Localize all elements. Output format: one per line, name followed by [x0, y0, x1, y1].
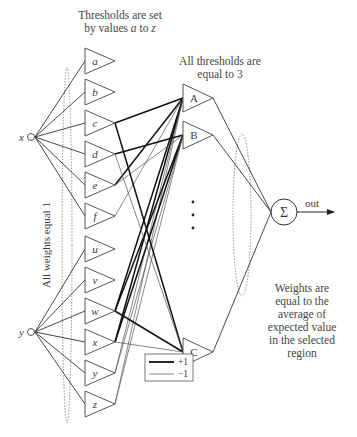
- legend-minus-label: −1: [178, 369, 188, 379]
- hidden-neuron-B: B: [183, 121, 213, 149]
- note-line: equal to the: [252, 295, 352, 308]
- threshold-neuron-b: b: [85, 79, 115, 105]
- ellipsis-dot: [192, 214, 195, 217]
- note-text: to: [137, 22, 152, 34]
- weighted-edge: [115, 98, 183, 311]
- threshold-neuron-e: e: [85, 172, 115, 198]
- threshold-neuron-x: x: [85, 329, 115, 355]
- threshold-neuron-c: c: [85, 110, 115, 136]
- first-layer-neurons: abcdefuvwxyz: [85, 48, 115, 417]
- weighted-edge: [115, 98, 183, 342]
- note-line: by values a to z: [50, 22, 190, 35]
- threshold-neuron-z: z: [85, 391, 115, 417]
- legend-plus-label: +1: [178, 357, 188, 367]
- input-label: x: [18, 131, 24, 143]
- input-node-y: y: [18, 326, 34, 338]
- hidden-neuron-A: A: [183, 84, 213, 112]
- note-line: All thresholds are: [150, 55, 290, 68]
- note-line: equal to 3: [150, 68, 290, 81]
- neuron-label: v: [93, 274, 98, 286]
- input-label: y: [18, 326, 24, 338]
- right-weights-region: [233, 134, 251, 296]
- second-layer-neurons: ABC: [183, 84, 213, 366]
- neuron-label: a: [92, 55, 98, 67]
- threshold-neuron-u: u: [85, 236, 115, 262]
- input-edge: [35, 137, 85, 185]
- input-node-x: x: [18, 131, 34, 143]
- note-line: Thresholds are set: [50, 9, 190, 22]
- neuron-label: c: [93, 117, 98, 129]
- note-text: by values: [84, 22, 131, 34]
- input-nodes: xy: [18, 131, 34, 338]
- ellipsis-dot: [192, 201, 195, 204]
- neuron-label: B: [190, 129, 197, 141]
- weights-average-note: Weights areequal to theaverage ofexpecte…: [252, 282, 352, 360]
- output-label: out: [305, 197, 319, 209]
- output-edge: [213, 98, 271, 212]
- neuron-label: e: [93, 179, 98, 191]
- neuron-label: d: [92, 148, 98, 160]
- output-edge: [213, 135, 271, 212]
- left-weights-region: [62, 67, 72, 423]
- left-weights-label: All weights equal 1: [40, 202, 52, 288]
- threshold-neuron-y: y: [85, 360, 115, 386]
- note-line: in the selected: [252, 334, 352, 347]
- input-edge: [35, 311, 85, 332]
- weighted-edge: [115, 135, 183, 311]
- weighted-edge: [115, 342, 183, 352]
- neuron-label: u: [92, 243, 98, 255]
- weighted-edge: [115, 154, 183, 352]
- input-edge: [35, 332, 85, 404]
- note-line: region: [252, 347, 352, 360]
- threshold-neuron-d: d: [85, 141, 115, 167]
- note-line: Weights are: [252, 282, 352, 295]
- neuron-label: A: [190, 92, 198, 104]
- sum-symbol: Σ: [280, 205, 288, 220]
- neuron-label: y: [92, 367, 98, 379]
- neuron-label: b: [92, 86, 98, 98]
- note-var-z: z: [151, 22, 155, 34]
- threshold-neuron-f: f: [85, 203, 115, 229]
- neuron-label: w: [91, 305, 99, 317]
- threshold-neuron-v: v: [85, 267, 115, 293]
- input-edge: [35, 332, 85, 342]
- neuron-label: z: [92, 398, 98, 410]
- neuron-label: x: [92, 336, 98, 348]
- thresholds-equal-3-note: All thresholds are equal to 3: [150, 55, 290, 81]
- input-edge: [35, 332, 85, 373]
- thresholds-a-to-z-note: Thresholds are set by values a to z: [50, 9, 190, 35]
- note-line: expected value: [252, 321, 352, 334]
- input-edge: [35, 137, 85, 154]
- threshold-neuron-w: w: [85, 298, 115, 324]
- note-line: average of: [252, 308, 352, 321]
- threshold-neuron-a: a: [85, 48, 115, 74]
- ellipsis-dot: [192, 227, 195, 230]
